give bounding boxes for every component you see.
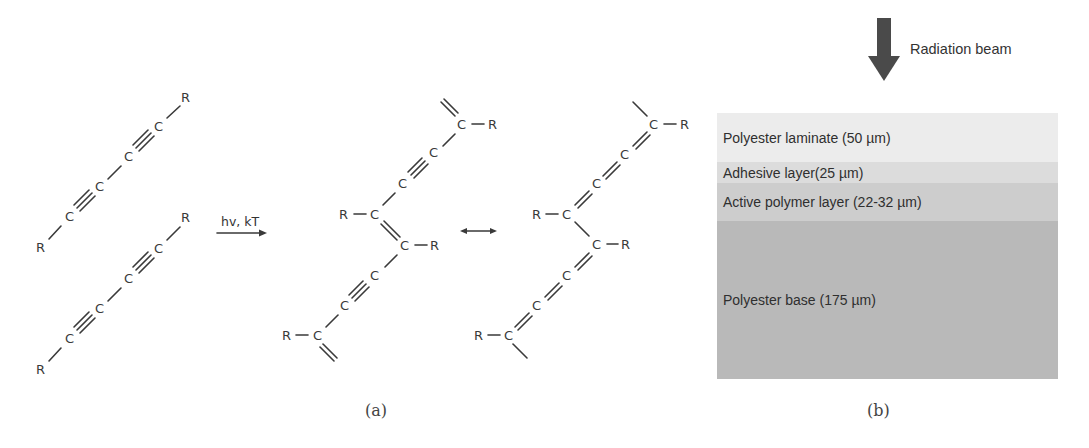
layer-adhesive: Adhesive layer(25 µm)	[717, 162, 1058, 183]
layer-polyester-laminate: Polyester laminate (50 µm)	[717, 113, 1058, 162]
layer-active-polymer: Active polymer layer (22-32 µm)	[717, 183, 1058, 221]
layer-label: Polyester laminate (50 µm)	[723, 130, 891, 146]
layer-label: Active polymer layer (22-32 µm)	[723, 194, 922, 210]
layer-label: Adhesive layer(25 µm)	[723, 165, 863, 181]
radiation-beam-label: Radiation beam	[910, 41, 1012, 57]
layer-stack: Polyester laminate (50 µm) Adhesive laye…	[717, 113, 1058, 379]
caption-b: (b)	[867, 401, 890, 420]
layer-polyester-base: Polyester base (175 µm)	[717, 221, 1058, 379]
film-structure-panel: Radiation beam Polyester laminate (50 µm…	[0, 0, 1089, 448]
radiation-beam-arrow-icon	[868, 18, 900, 82]
layer-label: Polyester base (175 µm)	[723, 292, 876, 308]
